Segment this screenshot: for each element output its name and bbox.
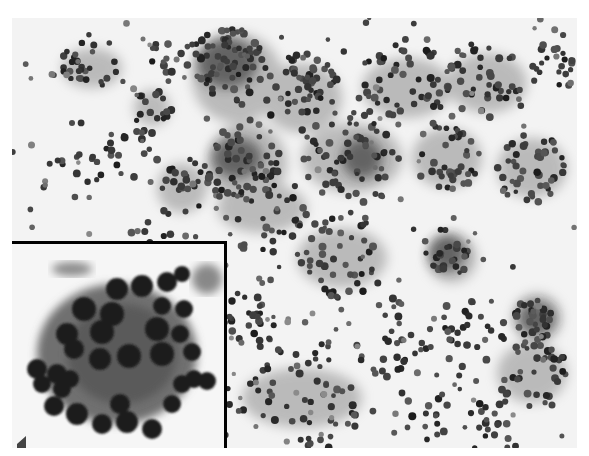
- high-power-inset: [12, 241, 227, 448]
- inset-corner-cell: [17, 436, 26, 448]
- clipped-caption: [0, 0, 589, 5]
- inset-cell-cluster: [12, 244, 224, 448]
